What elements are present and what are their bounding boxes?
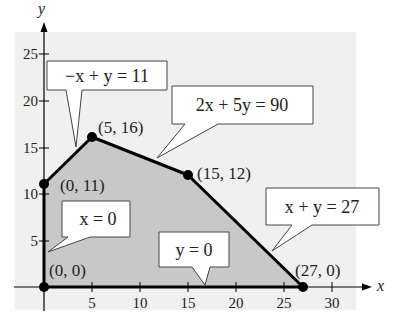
x-axis-label: x: [376, 277, 384, 294]
x-axis-arrow-icon: [362, 284, 372, 291]
vertex-label: (5, 16): [98, 118, 143, 137]
callout-label: x = 0: [79, 209, 116, 229]
x-tick-label: 10: [133, 295, 148, 311]
vertex-5-16: [87, 132, 97, 142]
y-axis-arrow-icon: [41, 22, 48, 32]
x-tick-label: 20: [229, 295, 244, 311]
vertex-label: (15, 12): [197, 164, 251, 183]
vertex-0-0: [39, 282, 49, 292]
vertex-0-11: [39, 179, 49, 189]
x-tick-label: 25: [277, 295, 292, 311]
feasible-region-chart: 5 10 15 20 25 30 5 10 15 20 25 x y (0, 0…: [0, 0, 393, 329]
y-tick-label: 5: [31, 233, 39, 249]
vertex-label: (0, 0): [49, 261, 86, 280]
callout-label: 2x + 5y = 90: [196, 95, 288, 115]
callout-label: −x + y = 11: [65, 66, 149, 86]
callout-label: y = 0: [175, 240, 212, 260]
vertex-15-12: [183, 170, 193, 180]
y-tick-label: 20: [23, 93, 38, 109]
vertex-label: (0, 11): [60, 176, 105, 195]
vertex-label: (27, 0): [295, 261, 340, 280]
vertex-27-0: [298, 282, 308, 292]
y-tick-label: 25: [23, 46, 38, 62]
y-tick-label: 10: [23, 186, 38, 202]
x-tick-label: 30: [325, 295, 340, 311]
callout-label: x + y = 27: [285, 197, 359, 217]
x-tick-label: 15: [181, 295, 196, 311]
y-axis-label: y: [36, 0, 46, 18]
x-tick-label: 5: [88, 295, 96, 311]
y-tick-label: 15: [23, 140, 38, 156]
